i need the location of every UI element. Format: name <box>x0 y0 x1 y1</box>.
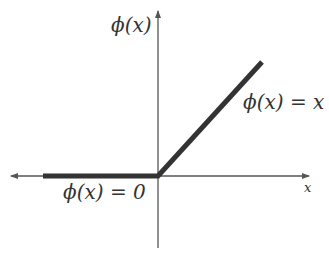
positive-branch-label: ϕ(x) = x <box>243 92 324 112</box>
relu-plot-svg <box>0 0 329 257</box>
x-axis-label: x <box>304 181 311 194</box>
relu-curve <box>43 62 262 176</box>
y-axis-label: ϕ(x) <box>111 15 152 35</box>
negative-branch-label: ϕ(x) = 0 <box>63 182 146 202</box>
relu-diagram: ϕ(x) ϕ(x) = x ϕ(x) = 0 x <box>0 0 329 257</box>
